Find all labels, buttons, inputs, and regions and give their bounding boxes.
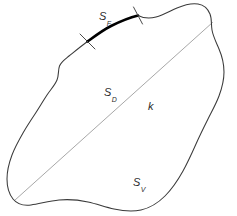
surface-diagram-graphic (0, 0, 237, 216)
region-outline-path (7, 4, 224, 211)
label-interior-upper-sd: SD (104, 82, 116, 101)
label-chord-k: k (148, 96, 154, 114)
diagram-canvas: SF SD k SV (0, 0, 237, 216)
label-boundary-arc-sf: SF (99, 6, 111, 25)
label-interior-lower-sv: SV (133, 172, 145, 191)
label-k-text: k (148, 100, 154, 112)
label-sd-subscript: D (112, 96, 117, 103)
label-sv-base: S (133, 176, 140, 188)
chord-line-k (15, 23, 213, 201)
label-sv-subscript: V (141, 186, 146, 193)
label-sd-base: S (104, 86, 111, 98)
highlighted-boundary-arc (88, 16, 139, 42)
label-sf-subscript: F (107, 20, 111, 27)
label-sf-base: S (99, 10, 106, 22)
